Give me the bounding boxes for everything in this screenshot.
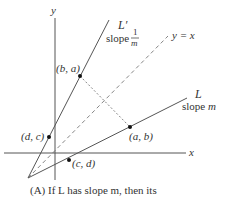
reflection-diagram: y x (b, a) (a, b) (d, c) (c, d) L′ slope… xyxy=(0,0,230,203)
reflection-segment xyxy=(80,76,130,127)
x-axis-label: x xyxy=(188,146,194,158)
line-L xyxy=(28,98,187,178)
line-y-equals-x xyxy=(28,36,168,178)
label-L-prime-slope-num: 1 xyxy=(133,27,138,37)
point-ab xyxy=(128,125,132,129)
label-ba: (b, a) xyxy=(56,62,80,75)
caption-prefix: (A) xyxy=(30,184,45,196)
label-L: L xyxy=(194,87,202,101)
point-ba xyxy=(78,74,82,78)
label-ab: (a, b) xyxy=(129,130,153,143)
figure-caption: (A) If L has slope m, then its xyxy=(30,184,157,196)
line-L-prime xyxy=(28,20,109,178)
label-dc: (d, c) xyxy=(21,130,45,143)
label-y-equals-x: y = x xyxy=(171,29,195,41)
point-cd xyxy=(67,158,71,162)
label-L-prime-slope-den: m xyxy=(131,38,138,48)
label-cd: (c, d) xyxy=(72,157,96,170)
point-dc xyxy=(47,135,51,139)
label-L-prime: L′ xyxy=(117,18,128,32)
label-L-slope: slope m xyxy=(182,100,216,112)
caption-text: If L has slope m, then its xyxy=(48,184,157,196)
y-axis-label: y xyxy=(50,4,56,16)
label-L-prime-slope-word: slope xyxy=(106,32,129,44)
